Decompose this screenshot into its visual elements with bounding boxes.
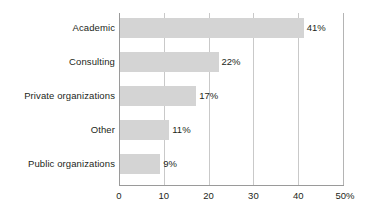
x-tick-50: 50% (335, 190, 354, 201)
bar-public-organizations (120, 154, 160, 174)
value-label-private-organizations: 17% (199, 86, 218, 106)
category-label-public-organizations: Public organizations (0, 154, 115, 174)
category-label-other: Other (0, 120, 115, 140)
value-label-academic: 41% (307, 18, 326, 38)
x-tick-40: 40 (293, 190, 304, 201)
table-row: Public organizations 9% (0, 154, 370, 174)
x-tick-0: 0 (116, 190, 121, 201)
bar-rows: Academic 41% Consulting 22% Private orga… (0, 0, 370, 218)
table-row: Consulting 22% (0, 52, 370, 72)
category-label-academic: Academic (0, 18, 115, 38)
table-row: Private organizations 17% (0, 86, 370, 106)
table-row: Other 11% (0, 120, 370, 140)
value-label-public-organizations: 9% (163, 154, 177, 174)
x-tick-30: 30 (248, 190, 259, 201)
bar-other (120, 120, 169, 140)
bar-consulting (120, 52, 219, 72)
bar-private-organizations (120, 86, 196, 106)
x-tick-20: 20 (203, 190, 214, 201)
value-label-other: 11% (172, 120, 190, 140)
table-row: Academic 41% (0, 18, 370, 38)
category-label-consulting: Consulting (0, 52, 115, 72)
bar-chart: Academic 41% Consulting 22% Private orga… (0, 0, 370, 218)
category-label-private-organizations: Private organizations (0, 86, 115, 106)
value-label-consulting: 22% (222, 52, 241, 72)
bar-academic (120, 18, 304, 38)
x-tick-10: 10 (159, 190, 170, 201)
